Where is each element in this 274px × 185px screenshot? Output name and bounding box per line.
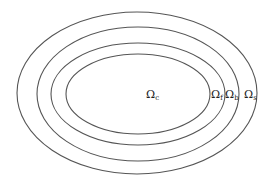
label-omega-s: Ωs (244, 88, 257, 102)
label-omega-c: Ωc (146, 88, 159, 102)
nested-ellipses-diagram: Ωc Ωf Ωb Ωs (0, 0, 274, 185)
ellipse-outer (17, 12, 257, 174)
diagram-svg: Ωc Ωf Ωb Ωs (0, 0, 274, 185)
ellipse-third (51, 43, 225, 145)
ellipse-second (37, 27, 239, 161)
label-omega-f: Ωf (211, 88, 224, 102)
label-omega-b: Ωb (225, 88, 239, 102)
ellipse-inner (66, 54, 210, 134)
